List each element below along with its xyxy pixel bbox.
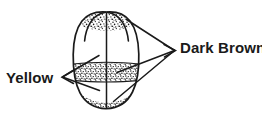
label-dark-brown: Dark Brown bbox=[180, 40, 262, 55]
seed-colour-diagram: Yellow Dark Brown bbox=[0, 0, 262, 117]
leader-lines-dark-brown bbox=[114, 20, 176, 102]
diagram-canvas bbox=[0, 0, 262, 117]
label-yellow: Yellow bbox=[6, 70, 53, 85]
